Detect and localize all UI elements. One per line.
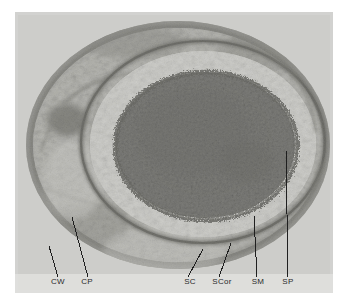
label-sc: SC [184,277,196,287]
label-cw: CW [51,277,65,287]
label-cp: CP [81,277,93,287]
label-sm: SM [252,277,265,287]
figure-root: CW CP SC SCor SM SP [0,0,347,306]
micrograph-plate [15,12,333,293]
label-sp: SP [282,277,293,287]
label-scor: SCor [212,277,231,287]
micrograph-image [15,12,333,293]
